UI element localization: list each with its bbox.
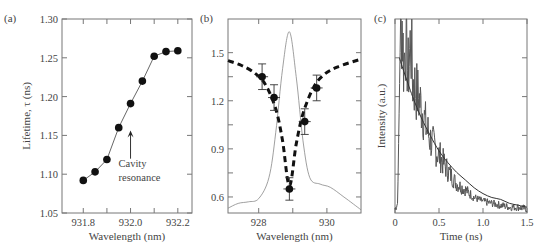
data-point (103, 156, 111, 164)
panel-a: 931.8932.0932.21.051.101.151.201.251.30C… (4, 12, 192, 243)
x-tick-label: 0 (392, 217, 397, 228)
pl-spectrum-line (228, 32, 361, 210)
data-point (174, 47, 182, 55)
data-point (139, 77, 147, 85)
x-axis-label: Wavelength (nm) (89, 230, 166, 243)
y-tick-label: 1.30 (40, 14, 58, 25)
pl-decay-trace (395, 19, 527, 212)
data-point (127, 100, 135, 108)
data-point (115, 124, 123, 132)
data-point (162, 48, 170, 56)
y-tick-label: 1.25 (40, 53, 58, 64)
x-tick-label: 932.0 (119, 217, 143, 228)
panel-label-c: (c) (374, 12, 387, 25)
data-point (313, 84, 321, 92)
x-tick-label: 930 (319, 217, 335, 228)
y-tick-label: 0.6 (211, 192, 224, 203)
y-axis-label: Intensity (a.u.) (375, 83, 388, 148)
x-axis-label: Wavelength (nm) (256, 230, 333, 243)
figure: 931.8932.0932.21.051.101.151.201.251.30C… (0, 0, 554, 251)
data-point (91, 168, 99, 176)
annotation-cavity: Cavity (119, 158, 148, 169)
y-tick-label: 1.10 (40, 169, 58, 180)
exponential-fit-line (399, 58, 527, 207)
y-tick-label: 1.2 (211, 96, 224, 107)
data-point (79, 177, 87, 185)
panel-label-b: (b) (200, 12, 213, 25)
x-tick-label: 1.0 (476, 217, 489, 228)
data-point (270, 94, 278, 102)
annotation-resonance: resonance (119, 172, 161, 183)
lorentzian-fit-line (228, 59, 361, 186)
data-point (150, 52, 158, 60)
y-tick-label: 0.9 (211, 144, 224, 155)
x-axis-label: Time (ns) (440, 230, 483, 243)
y-tick-label: 1.05 (40, 208, 58, 219)
x-tick-label: 932.2 (166, 217, 190, 228)
x-tick-label: 0.5 (432, 217, 445, 228)
data-point (301, 118, 309, 126)
x-tick-label: 931.8 (71, 217, 95, 228)
plot-frame (228, 19, 361, 213)
y-tick-label: 1.15 (40, 130, 58, 141)
plot-frame (62, 19, 192, 213)
panel-label-a: (a) (4, 12, 17, 25)
x-tick-label: 1.5 (520, 217, 533, 228)
y-tick-label: 1.20 (40, 92, 58, 103)
data-point (286, 185, 294, 193)
x-tick-label: 928 (251, 217, 267, 228)
panel-c: 00.51.01.5(c)Time (ns)Intensity (a.u.) (374, 12, 534, 243)
plot-frame (395, 19, 527, 213)
y-tick-label: 1.5 (211, 48, 224, 59)
panel-b: 9289300.60.91.21.5(b)Wavelength (nm) (200, 12, 361, 243)
data-point (258, 73, 266, 81)
y-axis-label: Lifetime, τ (ns) (20, 82, 33, 150)
